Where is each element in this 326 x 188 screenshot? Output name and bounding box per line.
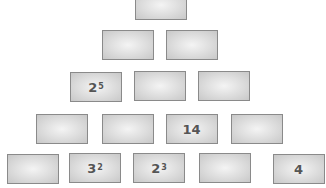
brick-exponent: 2 — [97, 163, 103, 172]
pyramid-brick-r5-c2[interactable]: 32 — [69, 153, 121, 183]
pyramid-brick-r3-c2[interactable] — [134, 71, 186, 101]
pyramid-brick-r4-c3[interactable]: 14 — [166, 114, 218, 144]
pyramid-brick-r3-c3[interactable] — [198, 71, 250, 101]
brick-value: 14 — [182, 122, 200, 137]
brick-value: 2 — [88, 80, 97, 95]
pyramid-brick-r5-c3[interactable]: 23 — [133, 153, 185, 183]
pyramid-brick-r3-c1[interactable]: 25 — [70, 72, 122, 102]
pyramid-brick-r4-c1[interactable] — [36, 114, 88, 144]
brick-value: 4 — [294, 162, 303, 177]
pyramid-brick-r5-c4[interactable] — [199, 153, 251, 183]
pyramid-brick-r5-c1[interactable] — [7, 154, 59, 184]
pyramid-brick-r2-c2[interactable] — [166, 30, 218, 60]
brick-exponent: 3 — [161, 163, 167, 172]
pyramid-brick-r4-c4[interactable] — [231, 114, 283, 144]
pyramid-brick-r5-c5[interactable]: 4 — [273, 154, 325, 184]
pyramid-brick-r2-c1[interactable] — [102, 30, 154, 60]
pyramid-brick-r4-c2[interactable] — [102, 114, 154, 144]
brick-exponent: 5 — [98, 82, 104, 91]
pyramid-brick-r1-c1[interactable] — [135, 0, 187, 20]
brick-value: 2 — [151, 161, 160, 176]
brick-value: 3 — [87, 161, 96, 176]
